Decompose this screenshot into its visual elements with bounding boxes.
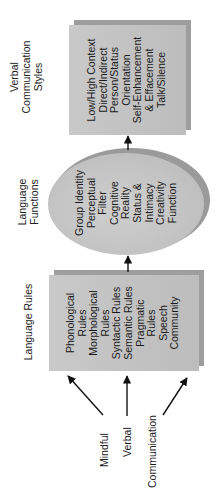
verbal-styles-item: Low/High Context — [86, 25, 98, 135]
driver-label-mindful: Mindful — [98, 433, 110, 467]
language-functions-list: Group Identity Perceptual Filter Cogniti… — [74, 151, 178, 255]
driver-label-communication: Communication — [146, 415, 158, 488]
language-functions-item: Function — [167, 151, 179, 255]
language-functions-item: Status & — [132, 151, 144, 255]
mindful-arrow — [68, 376, 103, 415]
language-rules-item: Rules — [146, 275, 158, 371]
communication-arrow — [163, 378, 187, 415]
verbal-styles-item: & Effacement — [144, 25, 156, 135]
language-functions-item: Creativity — [155, 151, 167, 255]
verbal-styles-item: Talk/Silence — [156, 25, 168, 135]
language-functions-item: Group Identity — [74, 151, 86, 255]
language-rules-item: Phonological — [65, 275, 77, 371]
language-rules-list: Phonological Rules Morphological Rules S… — [65, 275, 181, 371]
language-rules-item: Semantic Rules — [123, 275, 135, 371]
driver-label-verbal: Verbal — [121, 427, 133, 457]
language-rules-box: Phonological Rules Morphological Rules S… — [49, 275, 199, 371]
verbal-styles-list: Low/High Context Direct/Indirect Person/… — [86, 25, 167, 135]
language-rules-item: Community — [169, 275, 181, 371]
